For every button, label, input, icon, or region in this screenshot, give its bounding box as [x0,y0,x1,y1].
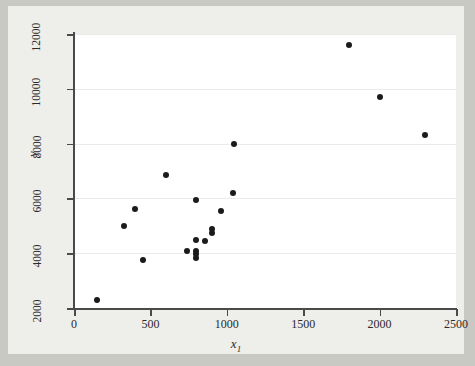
x-tick-mark [227,309,229,316]
y-tick-label-text: 2000 [30,300,42,323]
x-tick-label: 2500 [426,317,475,332]
scatter-point [163,172,169,178]
y-axis-line [73,32,75,310]
y-tick-label: 4000 [8,246,64,260]
figure-paper: 20004000600080001000012000 0500100015002… [8,6,464,354]
x-axis-line [72,308,457,310]
scatter-point [209,226,215,232]
scatter-point [346,42,352,48]
x-tick-label: 500 [120,317,180,332]
x-tick-label: 0 [44,317,104,332]
x-axis-label-subscript: 1 [237,344,242,354]
x-tick-label: 2000 [350,317,410,332]
x-axis-label: x1 [8,336,464,354]
gridline-y [74,253,456,254]
gridline-y [74,198,456,199]
scatter-point [230,190,236,196]
y-tick-mark [67,198,74,200]
y-tick-label: 2000 [8,301,64,315]
scatter-point [377,94,383,100]
x-tick-label: 1500 [273,317,333,332]
scatter-point [184,248,190,254]
y-tick-label: 12000 [8,27,64,41]
plot-area [74,34,456,308]
y-tick-label-text: 12000 [30,23,42,52]
scatter-point [140,257,146,263]
scatter-point [94,297,100,303]
x-tick-mark [456,309,458,316]
x-tick-mark [150,309,152,316]
scatter-point [193,237,199,243]
y-tick-label: 6000 [8,191,64,205]
y-tick-mark [67,308,74,310]
y-tick-label-text: 4000 [30,245,42,268]
x-tick-label: 1000 [197,317,257,332]
scatter-point [218,208,224,214]
scatter-point [193,255,199,261]
gridline-y [74,89,456,90]
y-axis-label: y [25,151,41,157]
figure-canvas: 20004000600080001000012000 0500100015002… [0,0,475,366]
y-tick-mark [67,144,74,146]
gridline-y [74,34,456,35]
y-tick-label-text: 6000 [30,190,42,213]
y-tick-mark [67,253,74,255]
y-axis-label-text: y [25,151,40,157]
gridline-y [74,144,456,145]
y-tick-mark [67,34,74,36]
y-tick-mark [67,89,74,91]
y-tick-label-text: 10000 [30,77,42,106]
y-tick-label: 8000 [8,137,64,151]
x-tick-mark [380,309,382,316]
y-tick-label: 10000 [8,82,64,96]
x-tick-mark [303,309,305,316]
scatter-point [193,197,199,203]
x-tick-mark [74,309,76,316]
